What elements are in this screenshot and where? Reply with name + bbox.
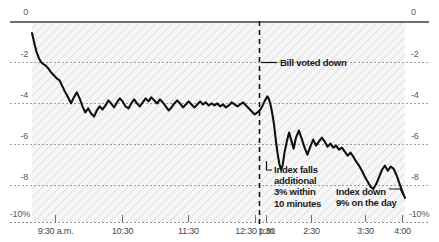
annotation-index-falls-line-3: 3% within: [274, 186, 321, 197]
annotation-index-down-line-1: Index down: [336, 186, 397, 197]
x-tick-label-0400: 4:00: [378, 226, 427, 236]
y-tick-label-right-6: -6: [411, 131, 439, 141]
x-tick-label-0230: 2:30: [287, 226, 336, 236]
annotation-index-falls-line-1: Index falls: [274, 164, 321, 175]
annotation-index-down-day: Index down 9% on the day: [336, 186, 397, 208]
annotation-bill-voted-down: Bill voted down: [280, 57, 346, 68]
y-tick-label-right-2: -2: [411, 49, 439, 59]
annotation-index-falls-line-4: 10 minutes: [274, 198, 321, 209]
y-tick-label-left-4: -4: [0, 90, 28, 100]
y-tick-label-right-8: -8: [411, 172, 439, 182]
annotation-index-down-line-2: 9% on the day: [336, 197, 397, 208]
x-tick-label-1130: 11:30: [164, 226, 213, 236]
x-tick-label-0130: 1:30: [242, 226, 291, 236]
y-tick-label-right-0: 0: [411, 7, 439, 17]
y-tick-label-left-6: -6: [0, 131, 28, 141]
stock-index-intraday-chart: 0 -2 -4 -6 -8 -10% 0 -2 -4 -6 -8 -10% 9:…: [0, 0, 439, 242]
y-tick-label-left-8: -8: [0, 172, 28, 182]
y-tick-label-left-2: -2: [0, 49, 28, 59]
y-tick-label-right-10: -10%: [409, 209, 439, 219]
y-tick-label-left-10: -10%: [0, 209, 30, 219]
y-tick-label-right-4: -4: [411, 90, 439, 100]
annotation-index-falls: Index falls additional 3% within 10 minu…: [274, 164, 321, 209]
y-tick-label-left-0: 0: [0, 7, 28, 17]
x-tick-label-1030: 10:30: [98, 226, 147, 236]
annotation-index-falls-line-2: additional: [274, 175, 321, 186]
x-tick-label-0930: 9:30 a.m.: [21, 226, 90, 236]
